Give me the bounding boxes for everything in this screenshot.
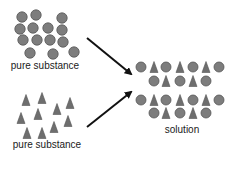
triangle-particle-icon — [202, 95, 210, 106]
triangle-particle-icon — [66, 98, 74, 109]
triangle-particle-icon — [38, 128, 46, 139]
triangle-particle-icon — [50, 122, 58, 133]
triangle-particle-icon — [22, 95, 30, 106]
circle-particle-icon — [57, 13, 67, 23]
solution-particles — [136, 62, 224, 119]
circle-particle-icon — [15, 24, 25, 34]
triangle-particle-icon — [38, 93, 46, 104]
circle-particle-icon — [25, 48, 35, 58]
circle-particle-icon — [57, 25, 67, 35]
triangle-particle-icon — [189, 76, 197, 87]
circle-particle-icon — [149, 108, 159, 118]
triangle-particle-icon — [202, 62, 210, 73]
circle-particle-icon — [136, 95, 146, 105]
circle-particle-icon — [188, 95, 198, 105]
triangle-particle-icon — [64, 116, 72, 127]
circle-particle-icon — [149, 76, 159, 86]
circle-particle-icon — [18, 35, 28, 45]
circle-particle-icon — [48, 49, 58, 59]
circle-particle-icon — [188, 62, 198, 72]
triangle-particle-icon — [150, 62, 158, 73]
circle-particle-icon — [136, 62, 146, 72]
triangle-particle-icon — [53, 104, 61, 115]
circle-particle-icon — [58, 37, 68, 47]
arrow-icon — [87, 38, 131, 74]
circle-particle-icon — [45, 35, 55, 45]
triangle-particle-icon — [189, 108, 197, 119]
triangle-particle-icon — [162, 108, 170, 119]
circle-particle-icon — [161, 95, 171, 105]
circle-particle-icon — [31, 10, 41, 20]
circle-particle-icon — [175, 76, 185, 86]
circle-particle-icon — [28, 23, 38, 33]
arrow-icon — [87, 92, 131, 127]
circle-particle-icon — [17, 12, 27, 22]
triangle-particle-icon — [162, 76, 170, 87]
triangle-particle-icon — [176, 62, 184, 73]
circle-particle-icon — [214, 95, 224, 105]
pure-substance-circles — [15, 10, 79, 59]
pure-substance-triangles — [17, 93, 74, 139]
triangle-particle-icon — [150, 95, 158, 106]
solution-label: solution — [165, 124, 199, 135]
circle-particle-icon — [161, 62, 171, 72]
circle-particle-icon — [175, 108, 185, 118]
circle-particle-icon — [201, 108, 211, 118]
triangle-particle-icon — [23, 128, 31, 139]
circle-particle-icon — [214, 62, 224, 72]
top-pure-substance-label: pure substance — [11, 60, 79, 71]
mixing-arrows — [87, 38, 131, 127]
circle-particle-icon — [69, 47, 79, 57]
circle-particle-icon — [43, 23, 53, 33]
circle-particle-icon — [32, 35, 42, 45]
triangle-particle-icon — [17, 113, 25, 124]
circle-particle-icon — [201, 76, 211, 86]
triangle-particle-icon — [176, 95, 184, 106]
triangle-particle-icon — [34, 109, 42, 120]
bottom-pure-substance-label: pure substance — [13, 139, 81, 150]
